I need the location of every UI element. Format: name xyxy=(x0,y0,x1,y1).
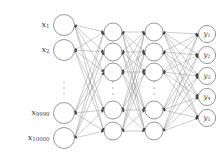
ellipsis-dot-input-layer xyxy=(63,93,65,95)
edge-x1-to-h1-4 xyxy=(75,25,105,110)
edge-x10000-to-h1-4 xyxy=(75,110,105,138)
ellipsis-dot-input-layer xyxy=(63,87,65,89)
edge-h2-2-to-y1 xyxy=(163,34,198,52)
label-subscript: 2 xyxy=(46,48,49,54)
network-canvas: x1x2x9999x10000y1y2y3y4y5 xyxy=(0,0,223,160)
ellipsis-dot-input-layer xyxy=(63,81,65,83)
node-h2-4[interactable] xyxy=(145,101,163,119)
label-subscript: 5 xyxy=(208,117,211,122)
ellipsis-group xyxy=(63,81,155,95)
ellipsis-dot-hidden-layer-1 xyxy=(112,87,114,89)
edge-x10000-to-h1-2 xyxy=(75,52,105,138)
node-h2-5[interactable] xyxy=(145,122,163,140)
node-h1-2[interactable] xyxy=(104,43,122,61)
node-h1-4[interactable] xyxy=(104,101,122,119)
node-x9999[interactable] xyxy=(54,103,75,124)
ellipsis-dot-hidden-layer-2 xyxy=(153,81,155,83)
edge-h2-5-to-y1 xyxy=(163,34,198,131)
label-subscript: 3 xyxy=(208,75,211,80)
node-h2-2[interactable] xyxy=(145,43,163,61)
node-h2-3[interactable] xyxy=(145,63,163,81)
edge-h2-2-to-y2 xyxy=(163,52,198,55)
input-label-x10000: x10000 xyxy=(28,132,50,142)
edge-h2-2-to-y4 xyxy=(163,52,198,97)
node-h1-3[interactable] xyxy=(104,63,122,81)
input-label-x1: x1 xyxy=(41,19,49,29)
edge-h2-1-to-y4 xyxy=(163,32,198,97)
label-subscript: 10000 xyxy=(32,136,50,142)
edge-x1-to-h1-1 xyxy=(75,25,105,32)
edge-x9999-to-h1-4 xyxy=(75,110,105,113)
neural-network-diagram: x1x2x9999x10000y1y2y3y4y5 xyxy=(0,0,223,160)
label-subscript: 4 xyxy=(208,96,211,101)
node-x1[interactable] xyxy=(54,15,75,36)
edge-x2-to-h1-5 xyxy=(75,50,105,131)
node-x10000[interactable] xyxy=(54,128,75,149)
input-label-x9999: x9999 xyxy=(31,107,50,117)
edge-h2-1-to-y2 xyxy=(163,32,198,55)
ellipsis-dot-hidden-layer-2 xyxy=(153,93,155,95)
edge-x10000-to-h1-5 xyxy=(75,131,105,138)
edge-x2-to-h1-2 xyxy=(75,50,105,52)
ellipsis-dot-hidden-layer-1 xyxy=(112,81,114,83)
label-subscript: 1 xyxy=(46,23,49,29)
node-h1-5[interactable] xyxy=(104,122,122,140)
ellipsis-dot-hidden-layer-2 xyxy=(153,87,155,89)
edge-h2-1-to-y1 xyxy=(163,32,198,34)
label-subscript: 1 xyxy=(208,33,211,38)
node-h2-1[interactable] xyxy=(145,23,163,41)
input-label-x2: x2 xyxy=(41,44,49,54)
label-subscript: 9999 xyxy=(36,111,50,117)
edges-group xyxy=(74,24,199,138)
node-h1-1[interactable] xyxy=(104,23,122,41)
ellipsis-dot-hidden-layer-1 xyxy=(112,93,114,95)
label-subscript: 2 xyxy=(208,54,211,59)
node-x2[interactable] xyxy=(54,40,75,61)
